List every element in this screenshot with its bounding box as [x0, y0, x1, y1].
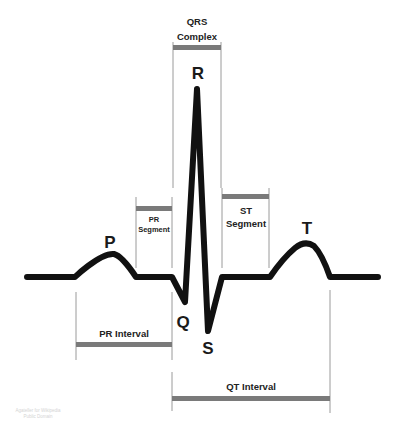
st-segment-label-line1: ST: [240, 205, 252, 216]
credit-line2: Public Domain: [23, 414, 53, 419]
st-segment-label-line2: Segment: [226, 218, 267, 229]
qt-interval-label: QT Interval: [226, 381, 276, 392]
pr-interval-label: PR Interval: [99, 328, 149, 339]
pr-interval-bracket: PR Interval: [76, 292, 172, 360]
ecg-diagram: QRS Complex PR Segment ST Segment PR Int…: [0, 0, 399, 438]
qrs-label-line1: QRS: [187, 16, 208, 27]
qrs-label-line2: Complex: [177, 31, 218, 42]
pr-segment-label-line1: PR: [149, 215, 160, 224]
p-wave-label: P: [104, 233, 115, 252]
pr-segment-bracket: PR Segment: [136, 197, 172, 268]
credit-line1: Agateller for Wikipedia: [15, 408, 61, 413]
pr-segment-label-line2: Segment: [138, 225, 170, 234]
r-wave-label: R: [192, 64, 204, 83]
q-wave-label: Q: [176, 313, 189, 332]
t-wave-label: T: [302, 219, 313, 238]
qt-interval-bracket: QT Interval: [172, 290, 330, 413]
st-segment-bracket: ST Segment: [222, 188, 269, 268]
s-wave-label: S: [202, 339, 213, 358]
ecg-trace: [27, 89, 378, 331]
